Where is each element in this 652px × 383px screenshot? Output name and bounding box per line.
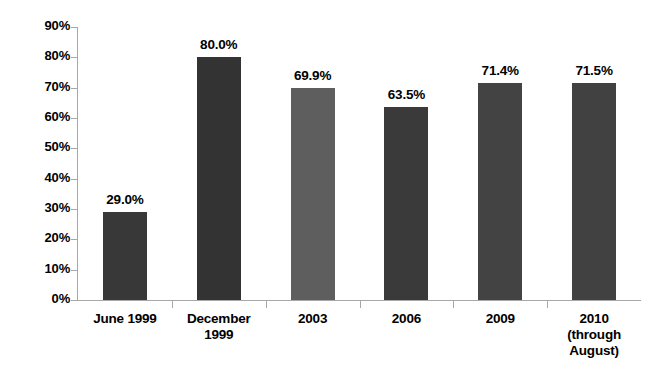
y-axis-tick-label: 50% — [45, 139, 70, 154]
y-axis-tick-mark — [71, 239, 77, 240]
category-label-line: June 1999 — [78, 311, 172, 327]
x-axis-category-label: 2006 — [360, 311, 454, 327]
plot-area: 29.0%80.0%69.9%63.5%71.4%71.5% — [78, 27, 641, 300]
bar-slot: 63.5% — [360, 27, 454, 300]
category-label-line: 2009 — [453, 311, 547, 327]
x-axis-category-label: 2010(throughAugust) — [547, 311, 641, 359]
bar[interactable] — [197, 57, 241, 300]
x-axis-separator-tick — [547, 301, 548, 308]
bar-chart: 90%80%70%60%50%40%30%20%10%0% 29.0%80.0%… — [0, 0, 652, 383]
y-axis-tick-mark — [71, 118, 77, 119]
y-axis-tick-mark — [71, 57, 77, 58]
bar-value-label: 71.5% — [575, 63, 612, 78]
bar-slot: 69.9% — [266, 27, 360, 300]
bar-slot: 71.4% — [453, 27, 547, 300]
y-axis-tick-label: 40% — [45, 170, 70, 185]
bar[interactable] — [291, 88, 335, 300]
y-axis-tick-mark — [71, 209, 77, 210]
y-axis-tick-label: 0% — [52, 291, 70, 306]
y-axis-tick-mark — [71, 27, 77, 28]
category-label-line: 2006 — [360, 311, 454, 327]
category-label-line: December — [172, 311, 266, 327]
bar[interactable] — [478, 83, 522, 300]
x-axis-category-label: 2009 — [453, 311, 547, 327]
y-axis-tick-label: 60% — [45, 109, 70, 124]
category-label-line: August) — [547, 343, 641, 359]
y-axis-tick-label: 70% — [45, 79, 70, 94]
x-axis-separator-tick — [453, 301, 454, 308]
x-axis-category-label: December1999 — [172, 311, 266, 343]
bar-slot: 80.0% — [172, 27, 266, 300]
y-axis-tick-label: 10% — [45, 261, 70, 276]
bar-slot: 71.5% — [547, 27, 641, 300]
bar[interactable] — [572, 83, 616, 300]
y-axis-tick-label: 80% — [45, 48, 70, 63]
category-label-line: 2003 — [266, 311, 360, 327]
y-axis-tick-mark — [71, 179, 77, 180]
x-axis-category-label: June 1999 — [78, 311, 172, 327]
bar-slot: 29.0% — [78, 27, 172, 300]
category-label-line: (through — [547, 327, 641, 343]
bar[interactable] — [384, 107, 428, 300]
y-axis-tick-mark — [71, 148, 77, 149]
bar-value-label: 29.0% — [106, 192, 143, 207]
bar-value-label: 69.9% — [294, 68, 331, 83]
x-axis-category-label: 2003 — [266, 311, 360, 327]
y-axis-tick-label: 90% — [45, 18, 70, 33]
bar-value-label: 80.0% — [200, 37, 237, 52]
bar[interactable] — [103, 212, 147, 300]
bar-value-label: 63.5% — [388, 87, 425, 102]
y-axis-tick-mark — [71, 88, 77, 89]
x-axis-separator-tick — [266, 301, 267, 308]
x-axis-separator-tick — [172, 301, 173, 308]
category-label-line: 1999 — [172, 327, 266, 343]
y-axis-tick-mark — [71, 270, 77, 271]
y-axis-tick-label: 20% — [45, 230, 70, 245]
x-axis-separator-tick — [360, 301, 361, 308]
category-label-line: 2010 — [547, 311, 641, 327]
y-axis-tick-label: 30% — [45, 200, 70, 215]
bar-value-label: 71.4% — [482, 63, 519, 78]
